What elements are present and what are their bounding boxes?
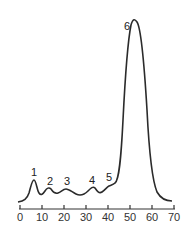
chromatogram-chart: 0 10 20 30 40 50 60 70 1 2 3 4 5 6 [0, 0, 190, 236]
peak-label-6: 6 [124, 20, 130, 32]
peak-label-1: 1 [31, 166, 37, 178]
svg-text:0: 0 [17, 211, 23, 223]
svg-text:10: 10 [36, 211, 48, 223]
peak-label-4: 4 [89, 174, 95, 186]
svg-text:40: 40 [102, 211, 114, 223]
svg-text:30: 30 [80, 211, 92, 223]
peak-label-2: 2 [47, 175, 53, 187]
peak-labels: 1 2 3 4 5 6 [31, 20, 130, 187]
svg-text:70: 70 [168, 211, 180, 223]
svg-text:20: 20 [58, 211, 70, 223]
svg-text:60: 60 [146, 211, 158, 223]
peak-label-5: 5 [106, 171, 112, 183]
svg-text:50: 50 [124, 211, 136, 223]
peak-label-3: 3 [64, 175, 70, 187]
x-axis-tick-labels: 0 10 20 30 40 50 60 70 [17, 211, 180, 223]
